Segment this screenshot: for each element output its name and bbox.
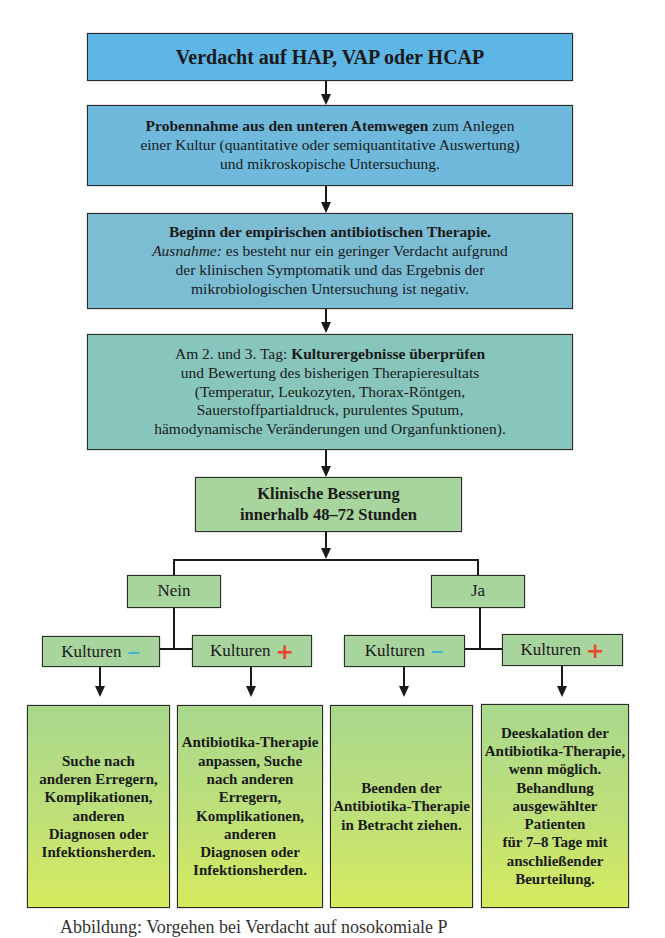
minus-icon: −	[430, 641, 444, 661]
outcome-text-line: Beurteilung.	[515, 870, 595, 888]
branch-line-right	[477, 559, 479, 575]
step-culture-review-line-3: (Temperatur, Leukozyten, Thorax-Röntgen,	[195, 383, 465, 402]
outcome-text-line: Suche nach	[62, 752, 135, 770]
branch-line-left	[173, 559, 175, 575]
step-sampling-bold: Probennahme aus den unteren Atemwegen	[146, 117, 429, 134]
branch-no-label: Nein	[157, 581, 190, 602]
step-culture-review-line-4: Sauerstoffpartialdruck, purulentes Sputu…	[197, 401, 464, 420]
exception-label: Ausnahme:	[152, 242, 222, 259]
outcome-text-line: anpassen, Suche	[198, 752, 302, 770]
outcome-text-line: Patienten	[525, 815, 586, 833]
culture-label: Kulturen	[61, 642, 121, 662]
culture-label: Kulturen	[521, 640, 581, 660]
outcome-text-line: Beenden der	[361, 779, 441, 797]
branch-line	[173, 559, 479, 561]
figure-caption: Abbildung: Vorgehen bei Verdacht auf nos…	[60, 917, 448, 938]
arrow-down-icon	[557, 686, 567, 697]
culture-positive-no-box: Kulturen +	[192, 635, 312, 667]
arrow-down-icon	[321, 202, 331, 213]
arrow-down-icon	[399, 686, 409, 697]
outcome-text-line: Diagnosen oder	[200, 843, 300, 861]
connector-line	[325, 81, 327, 95]
connector-line	[325, 309, 327, 323]
step-therapy-start-box: Beginn der empirischen antibiotischen Th…	[87, 213, 573, 309]
outcome-text-line: anschließender	[507, 852, 604, 870]
step-sampling-box: Probennahme aus den unteren Atemwegen zu…	[87, 105, 573, 186]
culture-positive-yes-box: Kulturen +	[502, 634, 623, 666]
culture-negative-yes-box: Kulturen −	[344, 635, 465, 667]
outcome-text-line: Behandlung	[516, 779, 594, 797]
connector-line	[250, 667, 252, 687]
minus-icon: −	[127, 642, 141, 662]
step-therapy-start-line-4: mikrobiologischen Untersuchung ist negat…	[191, 280, 469, 299]
branch-yes-label: Ja	[471, 581, 485, 602]
connector-line	[173, 608, 175, 650]
connector-line	[325, 532, 327, 549]
arrow-down-icon	[95, 686, 105, 697]
connector-line	[325, 450, 327, 466]
step-therapy-start-title: Beginn der empirischen antibiotischen Th…	[169, 223, 491, 242]
outcome-text-line: wenn möglich.	[509, 760, 602, 778]
arrow-down-icon	[321, 322, 331, 333]
plus-icon: +	[276, 639, 294, 664]
outcome-text-line: anderen Erregern,	[39, 770, 158, 788]
culture-negative-no-box: Kulturen −	[42, 636, 160, 667]
step-culture-review-prefix: Am 2. und 3. Tag:	[175, 345, 291, 362]
outcome-text-line: in Betracht ziehen.	[341, 816, 461, 834]
step-sampling-line-1: Probennahme aus den unteren Atemwegen zu…	[146, 117, 515, 136]
step-culture-review-line-2: und Bewertung des bisherigen Therapieres…	[181, 364, 479, 383]
connector-line	[479, 608, 481, 650]
arrow-down-icon	[321, 548, 331, 559]
outcome-text-line: für 7–8 Tage mit	[502, 833, 607, 851]
step-sampling-line-3: und mikroskopische Untersuchung.	[220, 155, 440, 174]
outcome-text-line: Antibiotika-Therapie	[333, 797, 470, 815]
outcome-box-no-negative: Suche nach anderen Erregern, Komplikatio…	[27, 705, 170, 908]
outcome-text-line: Erregern,	[219, 788, 282, 806]
step-culture-review-line-1: Am 2. und 3. Tag: Kulturergebnisse überp…	[175, 345, 485, 364]
step-therapy-start-line-3: der klinischen Symptomatik und das Ergeb…	[176, 261, 485, 280]
outcome-text-line: Komplikationen,	[196, 807, 304, 825]
outcome-text-line: Deeskalation der	[501, 724, 609, 742]
arrow-down-icon	[321, 94, 331, 105]
culture-label: Kulturen	[210, 641, 270, 661]
clinical-improvement-line-2: innerhalb 48–72 Stunden	[240, 505, 417, 525]
connector-line	[325, 186, 327, 202]
outcome-text-line: anderen	[72, 807, 124, 825]
junction-line-right	[465, 648, 502, 650]
junction-line-left	[160, 648, 193, 650]
outcome-box-no-positive: Antibiotika-Therapie anpassen, Suche nac…	[177, 705, 323, 908]
connector-line	[403, 667, 405, 687]
connector-line	[561, 666, 563, 687]
exception-text: es besteht nur ein geringer Verdacht auf…	[222, 242, 508, 259]
clinical-improvement-box: Klinische Besserung innerhalb 48–72 Stun…	[195, 477, 462, 532]
arrow-down-icon	[321, 466, 331, 477]
outcome-box-yes-positive: Deeskalation der Antibiotika-Therapie, w…	[481, 704, 629, 908]
connector-line	[99, 667, 101, 687]
clinical-improvement-line-1: Klinische Besserung	[257, 484, 400, 504]
step-therapy-start-line-2: Ausnahme: es besteht nur ein geringer Ve…	[152, 242, 508, 261]
culture-label: Kulturen	[365, 641, 425, 661]
plus-icon: +	[586, 638, 604, 663]
step-suspicion-title: Verdacht auf HAP, VAP oder HCAP	[176, 45, 485, 69]
outcome-box-yes-negative: Beenden der Antibiotika-Therapie in Betr…	[330, 705, 473, 908]
outcome-text-line: Infektionsherden.	[193, 861, 307, 879]
step-culture-review-box: Am 2. und 3. Tag: Kulturergebnisse überp…	[87, 334, 573, 450]
outcome-text-line: Komplikationen,	[45, 788, 153, 806]
step-culture-review-line-5: hämodynamische Veränderungen und Organfu…	[154, 420, 506, 439]
outcome-text-line: anderen	[224, 825, 276, 843]
outcome-text-line: Infektionsherden.	[42, 843, 156, 861]
outcome-text-line: Antibiotika-Therapie,	[485, 742, 625, 760]
outcome-text-line: Antibiotika-Therapie	[182, 733, 319, 751]
branch-yes-box: Ja	[431, 575, 525, 608]
step-sampling-rest: zum Anlegen	[428, 117, 514, 134]
outcome-text-line: Diagnosen oder	[49, 825, 149, 843]
arrow-down-icon	[246, 686, 256, 697]
outcome-text-line: nach anderen	[207, 770, 294, 788]
step-culture-review-bold: Kulturergebnisse überprüfen	[291, 345, 485, 362]
branch-no-box: Nein	[127, 575, 221, 608]
step-sampling-line-2: einer Kultur (quantitative oder semiquan…	[140, 136, 519, 155]
outcome-text-line: ausgewählter	[513, 797, 598, 815]
step-suspicion-box: Verdacht auf HAP, VAP oder HCAP	[87, 33, 573, 81]
